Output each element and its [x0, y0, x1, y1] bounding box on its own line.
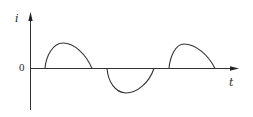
- positive-pulse-1: [45, 43, 92, 69]
- x-axis-arrow-icon: [230, 66, 239, 70]
- y-axis-arrow-icon: [28, 12, 32, 21]
- positive-pulse-2: [169, 44, 215, 69]
- x-axis-label: t: [229, 77, 233, 88]
- waveform-plot: [0, 0, 253, 117]
- origin-label: 0: [19, 62, 25, 73]
- negative-pulse: [107, 69, 154, 94]
- current-waveform-diagram: i 0 t: [0, 0, 253, 117]
- y-axis-label: i: [15, 13, 19, 24]
